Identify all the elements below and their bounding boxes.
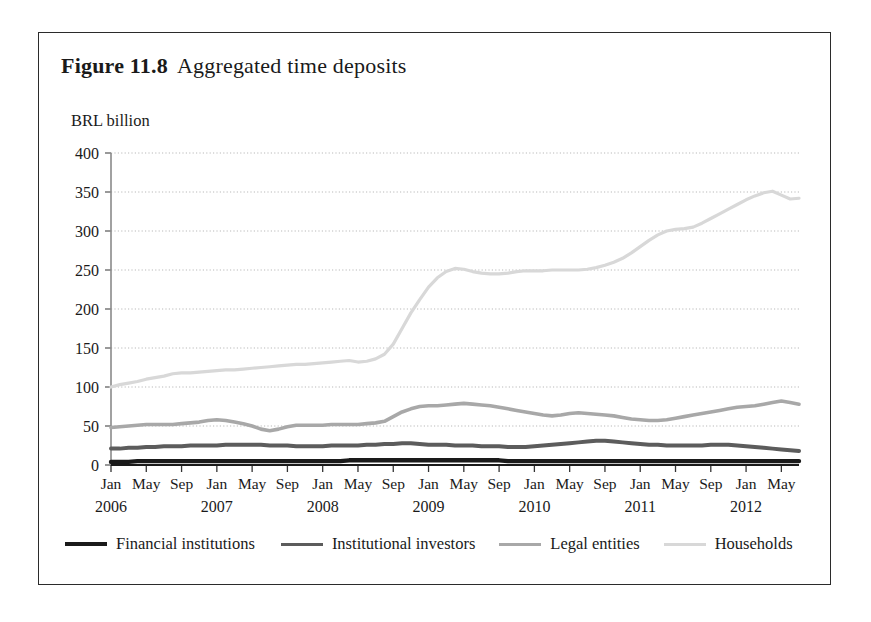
series-lines (111, 191, 799, 465)
legend-item-legal-entities: Legal entities (499, 534, 639, 554)
svg-text:May: May (767, 475, 796, 492)
svg-text:May: May (238, 475, 267, 492)
svg-text:250: 250 (75, 262, 99, 279)
svg-text:Jan: Jan (736, 475, 757, 492)
gridlines (111, 153, 799, 426)
legend-label-households: Households (715, 534, 793, 554)
legend-swatch-institutional-investors (281, 543, 323, 546)
svg-text:400: 400 (75, 145, 99, 162)
svg-text:100: 100 (75, 379, 99, 396)
svg-text:Jan: Jan (630, 475, 651, 492)
svg-text:300: 300 (75, 223, 99, 240)
legend-label-legal-entities: Legal entities (550, 534, 639, 554)
legend-swatch-financial-institutions (65, 542, 107, 546)
svg-text:Sep: Sep (170, 475, 194, 492)
svg-text:Jan: Jan (524, 475, 545, 492)
legend-item-institutional-investors: Institutional investors (281, 534, 475, 554)
legend-item-households: Households (664, 534, 793, 554)
svg-text:May: May (555, 475, 584, 492)
legend-label-institutional-investors: Institutional investors (332, 534, 475, 554)
series-line-households (111, 191, 799, 387)
svg-text:Jan: Jan (207, 475, 228, 492)
y-axis: 050100150200250300350400 (75, 145, 111, 474)
svg-text:150: 150 (75, 340, 99, 357)
svg-text:May: May (132, 475, 161, 492)
svg-text:May: May (661, 475, 690, 492)
svg-text:May: May (450, 475, 479, 492)
svg-text:Jan: Jan (418, 475, 439, 492)
svg-text:Sep: Sep (487, 475, 511, 492)
legend-item-financial-institutions: Financial institutions (65, 534, 255, 554)
svg-text:50: 50 (83, 418, 99, 435)
svg-text:2012: 2012 (730, 498, 762, 515)
svg-text:Sep: Sep (699, 475, 723, 492)
svg-text:Sep: Sep (593, 475, 617, 492)
svg-text:2009: 2009 (413, 498, 445, 515)
svg-text:2007: 2007 (201, 498, 233, 515)
svg-text:2010: 2010 (518, 498, 550, 515)
svg-text:Sep: Sep (382, 475, 406, 492)
svg-text:2011: 2011 (625, 498, 656, 515)
figure-frame: Figure 11.8Aggregated time deposits BRL … (38, 32, 831, 585)
svg-text:Sep: Sep (276, 475, 300, 492)
legend-swatch-legal-entities (499, 543, 541, 546)
x-year-labels: 2006200720082009201020112012 (95, 498, 762, 515)
series-line-financial-institutions (111, 460, 799, 462)
legend-swatch-households (664, 543, 706, 546)
svg-text:Jan: Jan (312, 475, 333, 492)
svg-text:2008: 2008 (307, 498, 339, 515)
chart-legend: Financial institutions Institutional inv… (65, 531, 810, 557)
legend-label-financial-institutions: Financial institutions (116, 534, 255, 554)
line-chart: 050100150200250300350400 JanMaySepJanMay… (39, 33, 832, 586)
svg-text:Jan: Jan (101, 475, 122, 492)
svg-text:0: 0 (91, 457, 99, 474)
series-line-institutional-investors (111, 441, 799, 451)
svg-text:200: 200 (75, 301, 99, 318)
svg-text:May: May (344, 475, 373, 492)
svg-text:350: 350 (75, 184, 99, 201)
x-tick-labels: JanMaySepJanMaySepJanMaySepJanMaySepJanM… (101, 475, 796, 492)
svg-text:2006: 2006 (95, 498, 127, 515)
